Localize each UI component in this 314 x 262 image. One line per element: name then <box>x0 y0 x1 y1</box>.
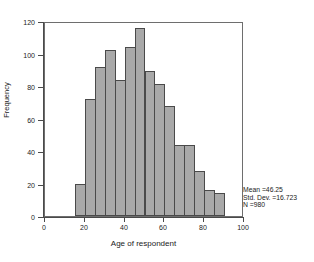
x-axis-title: Age of respondent <box>44 239 243 248</box>
x-axis-tick-label: 0 <box>32 224 56 232</box>
histogram-chart: 020406080100120 Frequency 020406080100 A… <box>0 0 314 262</box>
y-axis-tick-label: 100 <box>23 52 35 59</box>
x-axis-tick-label: 40 <box>112 224 136 232</box>
y-axis-tick-label: 0 <box>31 214 35 221</box>
bars-container <box>45 23 242 216</box>
y-axis-tick <box>38 22 43 23</box>
y-axis-line <box>43 22 44 218</box>
x-axis-tick <box>243 218 244 222</box>
y-axis-tick <box>38 152 43 153</box>
stat-n: N =980 <box>243 201 297 209</box>
x-axis-tick-label: 60 <box>151 224 175 232</box>
histogram-bar <box>214 193 225 216</box>
y-axis-tick-label: 120 <box>23 19 35 26</box>
x-axis-tick <box>124 218 125 222</box>
y-axis-tick-label: 20 <box>27 182 35 189</box>
y-axis-tick <box>38 87 43 88</box>
statistics-annotation: Mean =46.25 Std. Dev. =16.723 N =980 <box>243 186 297 209</box>
stat-std-dev: Std. Dev. =16.723 <box>243 194 297 202</box>
stat-mean: Mean =46.25 <box>243 186 297 194</box>
y-axis-title: Frequency <box>3 65 11 135</box>
x-axis-tick <box>84 218 85 222</box>
y-axis-tick-label: 80 <box>27 84 35 91</box>
chart-title <box>0 0 314 7</box>
x-axis-tick-label: 100 <box>231 224 255 232</box>
y-axis-tick <box>38 185 43 186</box>
y-axis-tick <box>38 55 43 56</box>
y-axis-tick <box>38 120 43 121</box>
x-axis-line <box>43 217 244 218</box>
x-axis-tick <box>44 218 45 222</box>
y-axis-tick-label: 60 <box>27 117 35 124</box>
x-axis-tick <box>163 218 164 222</box>
x-axis-tick <box>203 218 204 222</box>
x-axis-tick-label: 20 <box>72 224 96 232</box>
x-axis-tick-label: 80 <box>191 224 215 232</box>
y-axis-tick-label: 40 <box>27 149 35 156</box>
plot-area <box>44 22 243 217</box>
